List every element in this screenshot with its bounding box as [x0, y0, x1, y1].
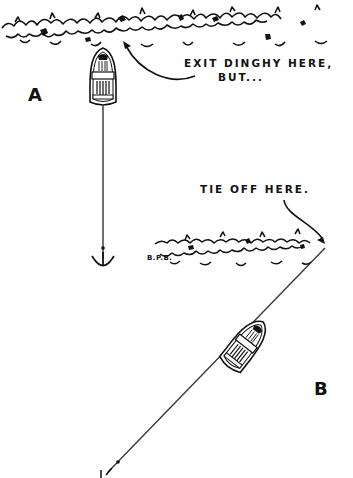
callout-arrow-b [284, 200, 325, 244]
anchor-a [92, 252, 114, 266]
anchor-b [101, 468, 112, 478]
scenario-b-label: B [314, 380, 328, 398]
anchor-line-a [101, 105, 105, 258]
callout-a-line1: EXIT DINGHY HERE, [184, 58, 333, 69]
callout-b: TIE OFF HERE. [200, 184, 310, 195]
scenario-a-label: A [28, 86, 42, 104]
callout-a-line2: BUT... [218, 72, 264, 83]
illustration-canvas [0, 0, 353, 478]
mooring-line-b [108, 248, 325, 472]
dinghy-b [218, 314, 274, 375]
shoreline-b [155, 229, 311, 266]
dinghy-a [90, 48, 116, 105]
shoreline-top [2, 5, 327, 47]
artist-signature: B.P.B. [147, 255, 173, 262]
